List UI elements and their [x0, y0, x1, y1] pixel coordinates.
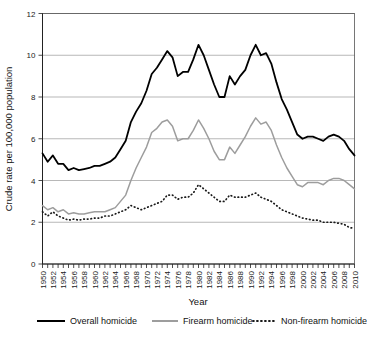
legend: Overall homicide Firearm homicide Non-fi… [37, 316, 367, 326]
x-tick-label: 1994 [267, 270, 276, 288]
x-tick-label: 1970 [143, 270, 152, 288]
x-tick-label: 1950 [39, 270, 48, 288]
x-tick-label: 1988 [236, 270, 245, 288]
x-axis-labels-group: 1950195219541956195819601962196419661968… [39, 270, 360, 288]
x-tick-label: 1954 [59, 270, 68, 288]
x-tick-label: 1968 [132, 270, 141, 288]
series-line-firearm-homicide [43, 118, 355, 214]
legend-label-overall: Overall homicide [70, 316, 137, 326]
x-tick-label: 1964 [111, 270, 120, 288]
x-tick-label: 1990 [247, 270, 256, 288]
x-tick-label: 1960 [91, 270, 100, 288]
x-axis-title: Year [188, 296, 207, 307]
x-tick-label: 1962 [101, 270, 110, 288]
y-tick-label: 12 [27, 10, 36, 19]
x-tick-label: 1974 [163, 270, 172, 288]
y-tick-label: 2 [31, 218, 36, 227]
x-tick-label: 2002 [309, 270, 318, 288]
x-tick-label: 1972 [153, 270, 162, 288]
x-tick-label: 1998 [288, 270, 297, 288]
x-tick-label: 1992 [257, 270, 266, 288]
y-tick-label: 6 [31, 135, 36, 144]
y-tick-label: 4 [31, 177, 36, 186]
legend-label-firearm: Firearm homicide [183, 316, 253, 326]
x-tick-label: 2008 [340, 270, 349, 288]
y-axis-ticks-group: 024681012 [27, 10, 43, 270]
x-tick-label: 1952 [49, 270, 58, 288]
x-tick-label: 1978 [184, 270, 193, 288]
x-tick-label: 1986 [226, 270, 235, 288]
x-tick-label: 1980 [195, 270, 204, 288]
x-tick-label: 2010 [351, 270, 360, 288]
x-tick-label: 2004 [319, 270, 328, 288]
x-tick-label: 1976 [174, 270, 183, 288]
y-tick-label: 0 [31, 260, 36, 269]
y-tick-label: 10 [27, 51, 36, 60]
legend-label-nonfirearm: Non-firearm homicide [281, 316, 367, 326]
x-tick-label: 1984 [215, 270, 224, 288]
x-axis-ticks-group [43, 264, 355, 268]
x-tick-label: 2000 [299, 270, 308, 288]
x-tick-label: 1996 [278, 270, 287, 288]
homicide-rate-chart: 024681012 195019521954195619581960196219… [0, 0, 367, 337]
x-tick-label: 1966 [122, 270, 131, 288]
series-line-overall-homicide [43, 45, 355, 170]
y-axis-title: Crude rate per 100,000 population [3, 67, 14, 212]
chart-svg: 024681012 195019521954195619581960196219… [0, 0, 367, 337]
y-tick-label: 8 [31, 93, 36, 102]
x-tick-label: 2006 [330, 270, 339, 288]
x-tick-label: 1958 [80, 270, 89, 288]
x-tick-label: 1956 [70, 270, 79, 288]
x-tick-label: 1982 [205, 270, 214, 288]
